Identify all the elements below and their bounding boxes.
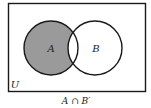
set-a-label: A [46, 43, 54, 54]
venn-diagram: A B U A ∩ B′ [0, 0, 151, 108]
diagram-caption: A ∩ B′ [61, 96, 90, 106]
universe-label: U [11, 79, 20, 90]
set-b-label: B [91, 43, 99, 54]
